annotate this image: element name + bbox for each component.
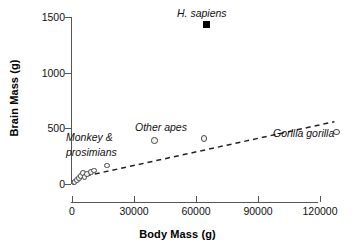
y-ticklabel-1500-wrap: 1500 xyxy=(23,12,65,22)
y-axis-spine xyxy=(71,17,72,184)
x-tick-90000 xyxy=(258,196,259,202)
x-ticklabel-0: 0 xyxy=(42,205,102,217)
y-ticklabel-500-wrap: 500 xyxy=(23,123,65,133)
x-ticklabel-120000: 120000 xyxy=(290,205,350,217)
x-ticklabel-30000: 30000 xyxy=(104,205,164,217)
other-apes-label: Other apes xyxy=(135,122,187,134)
x-tick-30000 xyxy=(134,196,135,202)
y-ticklabel-1000-wrap: 1000 xyxy=(23,68,65,78)
y-ticklabel-1000: 1000 xyxy=(31,68,65,78)
data-point xyxy=(104,163,110,169)
monkey-label-line1: Monkey & xyxy=(66,132,113,144)
y-tick-500 xyxy=(65,128,71,129)
data-point xyxy=(203,21,210,28)
y-ticklabel-500: 500 xyxy=(31,123,65,133)
data-point xyxy=(151,137,157,143)
x-tick-60000 xyxy=(196,196,197,202)
data-point xyxy=(333,129,339,135)
data-point xyxy=(91,168,97,174)
gorilla-label: Gorilla gorilla xyxy=(273,128,334,140)
scatter-chart-figure: 1500 1000 500 0 0 30000 60000 90000 1200… xyxy=(0,0,355,249)
y-ticklabel-0: 0 xyxy=(31,179,65,189)
y-tick-1000 xyxy=(65,73,71,74)
y-ticklabel-1500: 1500 xyxy=(31,12,65,22)
y-ticklabel-0-wrap: 0 xyxy=(23,179,65,189)
y-tick-1500 xyxy=(65,17,71,18)
x-tick-120000 xyxy=(320,196,321,202)
x-axis-title: Body Mass (g) xyxy=(0,228,355,240)
x-tick-0 xyxy=(72,196,73,202)
x-ticklabel-90000: 90000 xyxy=(228,205,288,217)
y-tick-0 xyxy=(65,184,71,185)
data-point xyxy=(201,135,207,141)
h-sapiens-label: H. sapiens xyxy=(177,8,227,20)
x-axis-spine xyxy=(71,202,318,203)
y-axis-title: Brain Mass (g) xyxy=(8,38,20,158)
monkey-label-line2: prosimians xyxy=(66,147,117,159)
x-ticklabel-60000: 60000 xyxy=(166,205,226,217)
